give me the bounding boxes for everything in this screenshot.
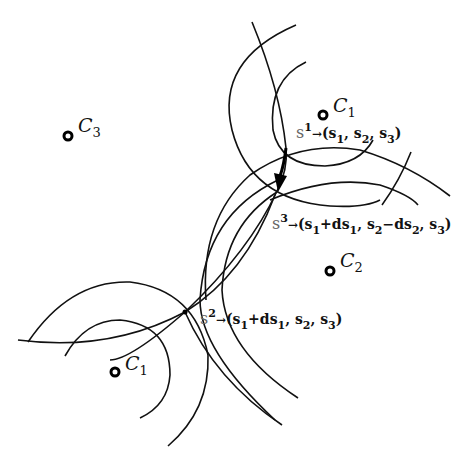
center-marker-c1-top (319, 111, 327, 119)
label-c1-top: C1 (333, 96, 356, 119)
center-marker-c1-bottom (111, 368, 119, 376)
center-marker-c2 (326, 267, 334, 275)
center-marker-c3 (64, 132, 72, 140)
arc-c1-bottom-outer (28, 282, 208, 446)
point-s2-dot (183, 310, 188, 315)
label-c3: C3 (78, 116, 101, 139)
label-s3: s3→(s1+ds1, s2−ds2, s3) (272, 213, 451, 236)
transition-arrowhead (274, 173, 287, 192)
label-c2: C2 (340, 251, 363, 274)
arc-c1-top-outer (229, 25, 380, 206)
label-s1: s1→(s1, s2, s3) (296, 122, 401, 145)
diagram-canvas: C3 C1 C2 C1 s1→(s1, s2, s3) s3→(s1+ds1, … (0, 0, 470, 467)
label-c1-bottom: C1 (125, 354, 148, 377)
label-s2: s2→(s1+ds1, s2, s3) (200, 308, 342, 331)
arc-c2-inner (270, 182, 418, 205)
